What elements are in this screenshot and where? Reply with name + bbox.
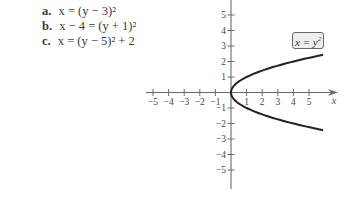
x-tick-label: 5	[307, 97, 312, 107]
x-tick-label: 3	[275, 97, 280, 107]
x-tick-label: 1	[244, 97, 249, 107]
curve-label: x = y2	[292, 32, 324, 49]
x-tick-label: 4	[291, 97, 296, 107]
x-tick-label: −5	[148, 97, 158, 107]
y-tick-label: −5	[216, 165, 226, 175]
y-tick-label: 5	[221, 10, 226, 20]
y-tick-label: −1	[216, 103, 226, 113]
y-tick-label: 4	[221, 26, 226, 36]
x-tick-label: −4	[164, 97, 174, 107]
x-tick-label: −3	[179, 97, 189, 107]
curve-label-text: x = y	[295, 36, 318, 48]
x-tick-label: 2	[260, 97, 265, 107]
x-axis-label: x	[331, 94, 337, 106]
y-tick-label: 3	[221, 41, 226, 51]
y-tick-label: 2	[221, 57, 226, 67]
y-tick-label: −3	[216, 134, 226, 144]
y-tick-label: 1	[221, 72, 226, 82]
y-tick-label: −4	[216, 150, 226, 160]
x-tick-label: −2	[195, 97, 205, 107]
y-tick-label: −2	[216, 119, 226, 129]
curve-label-exponent: 2	[318, 35, 322, 43]
